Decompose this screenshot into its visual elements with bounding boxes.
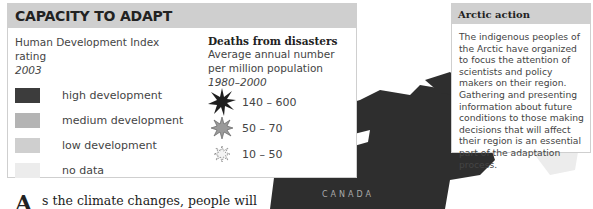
article-intro: As the climate changes, people will: [15, 190, 257, 209]
capacity-to-adapt-legend: CAPACITY TO ADAPT Human Development Inde…: [7, 3, 357, 178]
small-outline-burst-icon: [208, 140, 236, 168]
legend-item-nodata: no data: [15, 158, 200, 183]
medium-gray-burst-icon: [208, 114, 236, 142]
drop-cap: A: [15, 190, 32, 209]
legend-item-label: 10 – 50: [242, 148, 283, 161]
legend-item-high: high development: [15, 83, 200, 108]
disaster-heading: Deaths from disasters: [208, 35, 356, 47]
disaster-sub-1: Average annual number: [208, 47, 356, 61]
legend-item-label: no data: [62, 164, 104, 177]
map-label-canada: CANADA: [322, 190, 374, 199]
hdi-heading: Human Development Index: [15, 35, 200, 49]
hdi-legend: Human Development Index rating 2003 high…: [15, 35, 200, 183]
low-development-swatch: [15, 138, 40, 153]
legend-item-label: low development: [62, 139, 157, 152]
disaster-years: 1980–2000: [208, 75, 356, 89]
legend-item-label: high development: [62, 89, 162, 102]
article-text: s the climate changes, people will: [42, 193, 257, 208]
hdi-year: 2003: [15, 63, 200, 77]
arctic-action-sidebar: Arctic action The indigenous peoples of …: [451, 3, 591, 153]
disaster-legend: Deaths from disasters Average annual num…: [208, 35, 356, 167]
arctic-body: The indigenous peoples of the Arctic hav…: [452, 24, 590, 170]
hdi-heading-2: rating: [15, 49, 200, 63]
no-data-swatch: [15, 163, 40, 178]
disaster-sub-2: per million population: [208, 61, 356, 75]
legend-item-label: medium development: [62, 114, 183, 127]
legend-item-label: 50 – 70: [242, 122, 283, 135]
legend-item-140-600: 140 – 600: [208, 89, 356, 115]
legend-item-50-70: 50 – 70: [208, 115, 356, 141]
large-dark-burst-icon: [208, 88, 236, 116]
legend-item-medium: medium development: [15, 108, 200, 133]
arctic-header: Arctic action: [452, 4, 590, 24]
arctic-title: Arctic action: [458, 9, 530, 20]
high-development-swatch: [15, 88, 40, 103]
legend-header: CAPACITY TO ADAPT: [8, 4, 356, 28]
legend-item-low: low development: [15, 133, 200, 158]
medium-development-swatch: [15, 113, 40, 128]
legend-item-10-50: 10 – 50: [208, 141, 356, 167]
legend-title: CAPACITY TO ADAPT: [15, 8, 172, 24]
legend-item-label: 140 – 600: [242, 96, 296, 109]
